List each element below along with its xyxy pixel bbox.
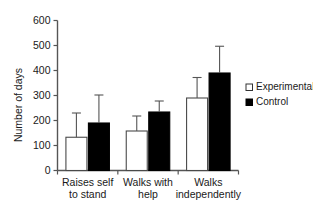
- bar-control-2: [209, 73, 230, 171]
- y-tick-label: 0: [45, 164, 51, 176]
- legend-label-control: Control: [256, 96, 288, 107]
- legend-label-experimental: Experimental: [256, 81, 313, 92]
- bar-experimental-2: [187, 98, 208, 171]
- category-label-line: Raises self: [62, 176, 113, 188]
- category-label-line: to stand: [69, 188, 107, 200]
- bar-experimental-0: [66, 137, 87, 170]
- category-label-line: independently: [176, 188, 242, 200]
- bar-experimental-1: [126, 131, 147, 171]
- y-tick-label: 600: [33, 14, 51, 26]
- y-axis-ticks: 0100200300400500600: [33, 14, 58, 176]
- y-tick-label: 300: [33, 89, 51, 101]
- filled-square-marker: [246, 99, 253, 106]
- y-tick-label: 500: [33, 39, 51, 51]
- y-tick-label: 100: [33, 139, 51, 151]
- y-tick-label: 400: [33, 64, 51, 76]
- open-square-marker: [246, 84, 253, 91]
- bars-layer: [66, 46, 230, 170]
- chart-canvas: Number of days 0100200300400500600 Raise…: [0, 0, 313, 215]
- y-tick-label: 200: [33, 114, 51, 126]
- category-label-line: Walks with: [123, 176, 173, 188]
- x-axis-category-labels: Raises selfto standWalks withhelpWalksin…: [62, 176, 242, 201]
- bar-control-1: [149, 112, 170, 171]
- bar-chart-figure: Number of days 0100200300400500600 Raise…: [0, 0, 313, 215]
- category-label-line: Walks: [194, 176, 222, 188]
- bar-control-0: [88, 123, 109, 171]
- category-label-line: help: [138, 188, 158, 200]
- chart-legend: ExperimentalControl: [246, 81, 313, 107]
- y-axis-title: Number of days: [12, 68, 24, 142]
